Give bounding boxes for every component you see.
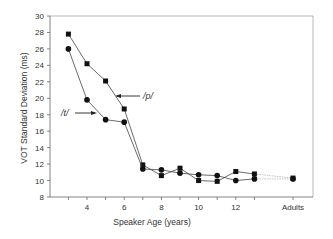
- circle-marker: [66, 46, 72, 52]
- y-tick-label: 18: [35, 111, 44, 120]
- x-tick-label: 4: [85, 203, 90, 212]
- circle-marker: [214, 173, 220, 179]
- y-tick-label: 12: [35, 160, 44, 169]
- circle-marker: [84, 97, 90, 103]
- circle-marker: [177, 170, 183, 176]
- x-tick-label: 6: [122, 203, 127, 212]
- square-marker: [196, 178, 201, 183]
- y-tick-label: 24: [35, 61, 44, 70]
- t-arrow-head-icon: [91, 111, 97, 115]
- y-tick-label: 8: [40, 193, 45, 202]
- t-annotation-label: /t/: [60, 108, 70, 118]
- chart: 81012141618202224262830 4681012Adults /p…: [0, 0, 333, 239]
- y-tick-label: 20: [35, 94, 44, 103]
- x-axis-label: Speaker Age (years): [113, 217, 191, 227]
- x-tick-label: 10: [194, 203, 203, 212]
- y-tick-label: 28: [35, 28, 44, 37]
- y-tick-label: 14: [35, 144, 44, 153]
- square-marker: [103, 78, 108, 83]
- y-tick-label: 26: [35, 45, 44, 54]
- square-marker: [233, 169, 238, 174]
- square-marker: [215, 179, 220, 184]
- circle-marker: [159, 167, 165, 173]
- x-tick-label: Adults: [282, 203, 304, 212]
- annotations: /p//t/: [60, 91, 155, 118]
- square-marker: [178, 166, 183, 171]
- circle-marker: [290, 176, 296, 182]
- square-marker: [66, 32, 71, 37]
- data-series: [66, 32, 296, 184]
- circle-marker: [103, 117, 109, 123]
- circle-marker: [121, 119, 127, 125]
- y-tick-label: 30: [35, 12, 44, 21]
- y-tick-label: 10: [35, 177, 44, 186]
- series-line: [68, 34, 254, 181]
- p-arrow-head-icon: [115, 94, 121, 98]
- y-axis-label: VOT Standard Deviation (ms): [19, 52, 29, 163]
- x-tick-label: 12: [231, 203, 240, 212]
- series-line: [68, 49, 254, 181]
- x-axis: 4681012Adults: [68, 197, 304, 212]
- y-axis: 81012141618202224262830: [35, 12, 50, 202]
- square-marker: [252, 171, 257, 176]
- y-tick-label: 22: [35, 78, 44, 87]
- square-marker: [159, 173, 164, 178]
- circle-marker: [252, 176, 258, 182]
- p-annotation-label: /p/: [142, 91, 155, 101]
- square-marker: [122, 106, 127, 111]
- circle-marker: [140, 166, 146, 172]
- circle-marker: [196, 172, 202, 178]
- square-marker: [85, 61, 90, 66]
- y-tick-label: 16: [35, 127, 44, 136]
- circle-marker: [233, 178, 239, 184]
- series-line-to-adults: [254, 174, 293, 178]
- x-tick-label: 8: [159, 203, 164, 212]
